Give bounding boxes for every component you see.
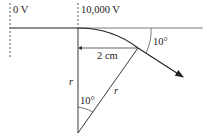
exit-trajectory-arrow: [138, 48, 183, 77]
radius-label-slanted: r: [114, 85, 119, 96]
center-angle-label: 10°: [80, 95, 95, 106]
deflection-diagram: 0 V 10,000 V 2 cm 10° r r 10°: [0, 0, 203, 139]
left-plate-label: 0 V: [13, 4, 29, 15]
beam-path-curved: [78, 28, 138, 48]
right-plate-label: 10,000 V: [81, 4, 120, 15]
exit-angle-arc: [146, 28, 151, 53]
dimension-label: 2 cm: [97, 50, 118, 61]
center-angle-arc: [78, 107, 93, 112]
exit-angle-label: 10°: [153, 36, 168, 47]
radius-label-vertical: r: [69, 76, 74, 87]
